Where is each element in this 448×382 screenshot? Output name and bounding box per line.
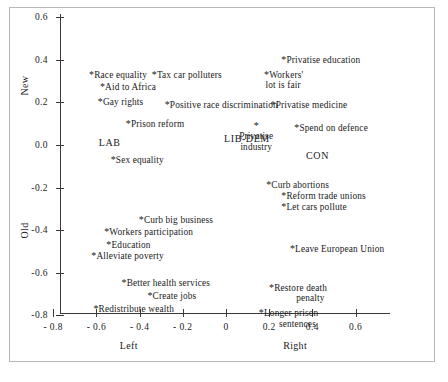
x-tick [183,309,184,317]
data-point-label: *Aid to Africa [100,82,156,92]
data-point-label: *Prison reform [126,119,185,129]
y-tick [56,273,64,274]
y-tick [56,102,64,103]
chart-screenshot: 0.60.40.20.0-0.2-0.4-0.6-0.8- 0.8- 0.6- … [0,0,448,382]
data-point-label: *Alleviate poverty [91,251,164,261]
data-point-label: *Let cars pollute [281,202,346,212]
y-tick-label: -0.2 [14,183,48,193]
y-axis-title-new: New [19,66,30,106]
y-tick [56,17,64,18]
x-tick-label: 0.6 [333,322,379,332]
data-point-label: *Workers participation [104,227,193,237]
x-tick-label: - 0.8 [30,322,76,332]
x-tick-label: - 0.6 [73,322,119,332]
y-axis-line [60,14,61,314]
x-tick-label: - 0.2 [160,322,206,332]
data-point-label: *Tax car polluters [152,70,222,80]
data-point-label: *Better health services [121,278,209,288]
y-axis-title-old: Old [19,211,30,251]
data-point-label: *Leave European Union [290,244,384,254]
data-point-label: *Redistribute wealth [93,304,174,314]
data-point-label: *Reform trade unions [281,191,365,201]
data-point-label: *Restore deathpenalty [239,283,327,304]
x-axis-title-right: Right [275,340,315,351]
data-point-label: *Education [106,240,150,250]
y-tick [56,315,64,316]
y-tick [56,188,64,189]
y-tick-label: -0.8 [14,310,48,320]
y-tick-label: 0.0 [14,140,48,150]
y-tick-label: 0.4 [14,55,48,65]
data-point-label: *Privatise medicine [271,100,348,110]
y-tick-label: -0.6 [14,268,48,278]
x-tick [53,309,54,317]
data-point-label: *Longer prisonsentences [230,308,318,329]
data-point-label: *Workers'lot is fair [215,70,303,91]
data-point-label: *Race equality [89,70,147,80]
x-tick-label: - 0.4 [117,322,163,332]
x-tick [356,309,357,317]
x-tick [226,309,227,317]
party-label: CON [306,150,329,161]
y-tick [56,230,64,231]
y-tick-label: 0.6 [14,12,48,22]
scatter-plot: 0.60.40.20.0-0.2-0.4-0.6-0.8- 0.8- 0.6- … [0,0,448,382]
data-point-label: *Create jobs [147,291,196,301]
data-point-label: *Sex equality [111,155,164,165]
y-tick [56,60,64,61]
data-point-label: *Curb abortions [266,180,329,190]
data-point-label: *Gay rights [98,97,144,107]
data-point-label: *Curb big business [139,215,213,225]
data-point-label: *Spend on defence [294,123,368,133]
x-axis-title-left: Left [109,340,149,351]
y-tick [56,145,64,146]
party-label: LAB [99,137,121,148]
party-label: LIB-DEM [224,133,270,144]
data-point-label: *Privatise education [281,55,360,65]
data-point-label: *Positive race discrimination [165,100,278,110]
